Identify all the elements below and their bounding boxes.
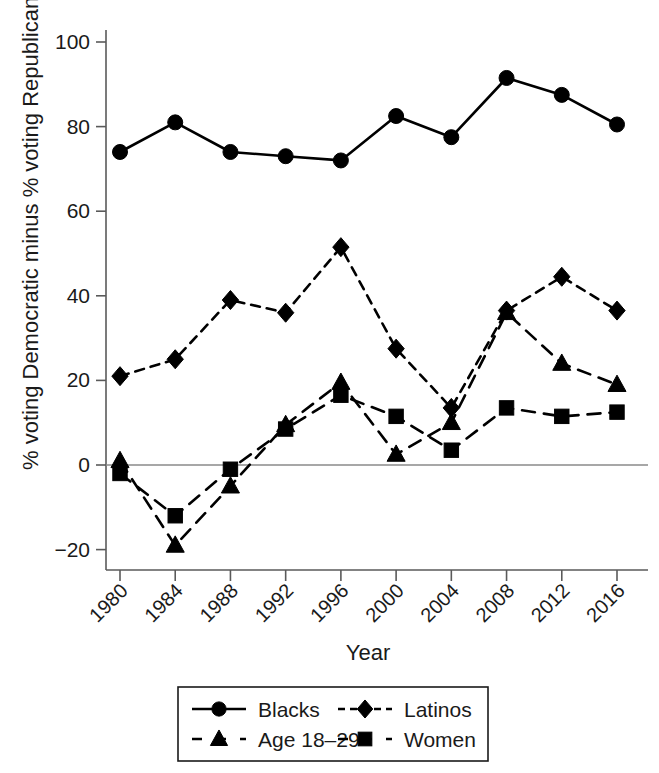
x-tick-label: 1996	[306, 579, 353, 626]
x-tick-label: 2004	[416, 579, 463, 626]
circle-marker	[333, 153, 348, 168]
legend-item-label: Latinos	[404, 698, 472, 721]
series-layer	[111, 70, 626, 552]
series-line	[120, 247, 617, 408]
square-marker	[223, 462, 237, 476]
square-marker	[334, 388, 348, 402]
square-marker	[555, 409, 569, 423]
y-tick-label: 40	[67, 284, 90, 307]
circle-marker	[113, 144, 128, 159]
y-tick-label: 80	[67, 115, 90, 138]
triangle-marker	[332, 373, 350, 389]
x-tick-label: 2000	[361, 579, 408, 626]
x-tick-label: 2016	[582, 579, 629, 626]
circle-marker	[212, 702, 226, 716]
x-tick-label: 1988	[195, 579, 242, 626]
y-tick-label: 0	[78, 453, 90, 476]
chart-figure: % voting Democratic minus % voting Repub…	[0, 0, 659, 773]
diamond-marker	[554, 267, 570, 286]
square-marker	[358, 732, 372, 746]
triangle-marker	[387, 445, 405, 461]
square-marker	[278, 422, 292, 436]
diamond-marker	[277, 303, 293, 322]
y-tick-label: −20	[54, 538, 90, 561]
x-axis-ticks: 1980198419881992199620002004200820122016	[85, 570, 629, 626]
square-marker	[610, 405, 624, 419]
x-axis-title: Year	[346, 640, 390, 665]
diamond-marker	[609, 301, 625, 320]
circle-marker	[554, 87, 569, 102]
x-tick-label: 1992	[250, 579, 297, 626]
circle-marker	[168, 115, 183, 130]
series-latinos	[112, 238, 625, 418]
y-axis-title: % voting Democratic minus % voting Repub…	[18, 0, 43, 470]
x-tick-label: 1980	[85, 579, 132, 626]
triangle-marker	[442, 413, 460, 429]
series-line	[120, 395, 617, 516]
square-marker	[444, 443, 458, 457]
square-marker	[168, 509, 182, 523]
circle-marker	[278, 149, 293, 164]
series-blacks	[113, 70, 625, 167]
legend-item-label: Women	[404, 728, 476, 751]
y-tick-label: 60	[67, 199, 90, 222]
series-line	[120, 78, 617, 160]
circle-marker	[223, 144, 238, 159]
series-age-18-29	[111, 303, 626, 552]
circle-marker	[499, 70, 514, 85]
triangle-marker	[553, 354, 571, 370]
x-tick-label: 1984	[140, 579, 187, 626]
series-line	[120, 313, 617, 546]
square-marker	[389, 409, 403, 423]
circle-marker	[610, 117, 625, 132]
chart-legend: BlacksLatinosAge 18–29Women	[178, 687, 488, 761]
triangle-marker	[221, 477, 239, 493]
legend-item-label: Blacks	[258, 698, 320, 721]
triangle-marker	[111, 451, 129, 467]
series-women	[113, 388, 624, 523]
circle-marker	[389, 109, 404, 124]
circle-marker	[444, 130, 459, 145]
square-marker	[113, 466, 127, 480]
chart-svg: % voting Democratic minus % voting Repub…	[0, 0, 659, 773]
square-marker	[499, 401, 513, 415]
y-axis-ticks: 100806040200−20	[54, 30, 106, 561]
diamond-marker	[112, 367, 128, 386]
y-tick-label: 100	[55, 30, 90, 53]
y-tick-label: 20	[67, 368, 90, 391]
x-tick-label: 2008	[471, 579, 518, 626]
x-tick-label: 2012	[527, 579, 574, 626]
